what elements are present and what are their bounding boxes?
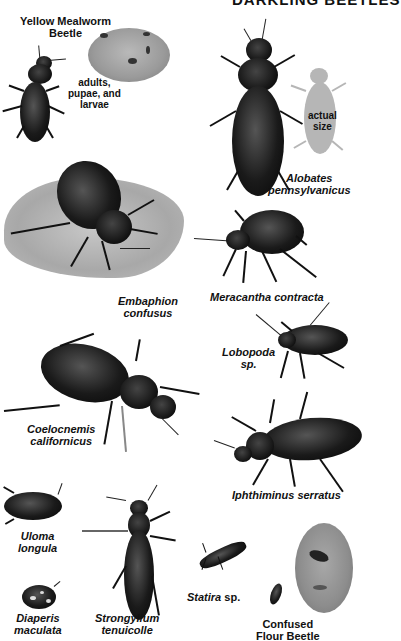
label-meracantha: Meracantha contracta [210, 291, 324, 303]
label-line: Alobates [268, 172, 351, 184]
label-line: confusus [118, 307, 178, 319]
label-actual-size: actual size [308, 110, 337, 132]
label-iphthiminus: Iphthiminus serratus [232, 489, 341, 501]
label-lobopoda: Lobopoda sp. [222, 346, 275, 370]
label-yellow-mealworm-beetle: Yellow Mealworm Beetle [20, 15, 111, 39]
label-line: Diaperis [14, 612, 62, 624]
label-embaphion: Embaphion confusus [118, 295, 178, 319]
label-line: tenuicolle [95, 624, 159, 636]
flour-beetle-inset-image [295, 523, 353, 613]
label-uloma: Uloma longula [18, 530, 57, 554]
label-line: longula [18, 542, 57, 554]
label-line: Coelocnemis [27, 423, 95, 435]
label-line: californicus [27, 435, 95, 447]
label-line: adults, [68, 77, 121, 88]
label-mealworm-inset: adults, pupae, and larvae [68, 77, 121, 110]
label-line: sp. [222, 358, 275, 370]
label-line: maculata [14, 624, 62, 636]
label-line: pennsylvanicus [268, 184, 351, 196]
label-line: Lobopoda [222, 346, 275, 358]
label-line: size [308, 121, 337, 132]
label-line: Strongylium [95, 612, 159, 624]
label-suffix: sp. [221, 591, 240, 603]
mealworm-inset-image [88, 28, 170, 82]
label-diaperis: Diaperis maculata [14, 612, 62, 636]
label-strongylium: Strongylium tenuicolle [95, 612, 159, 636]
label-line: Embaphion [118, 295, 178, 307]
label-line: Iphthiminus serratus [232, 489, 341, 501]
label-coelocnemis: Coelocnemis californicus [27, 423, 95, 447]
label-alobates: Alobates pennsylvanicus [268, 172, 351, 196]
label-statira: Statira sp. [187, 591, 240, 603]
label-line: Flour Beetle [256, 630, 320, 641]
label-line: actual [308, 110, 337, 121]
label-line: Yellow Mealworm [20, 15, 111, 27]
label-line: Uloma [18, 530, 57, 542]
label-line: pupae, and [68, 88, 121, 99]
page-title: DARKLING BEETLES [232, 0, 401, 8]
label-line: Meracantha contracta [210, 291, 324, 303]
label-genus: Statira [187, 591, 221, 603]
label-line: Confused [256, 618, 320, 630]
label-confused-flour-beetle: Confused Flour Beetle [256, 618, 320, 641]
label-line: larvae [68, 99, 121, 110]
